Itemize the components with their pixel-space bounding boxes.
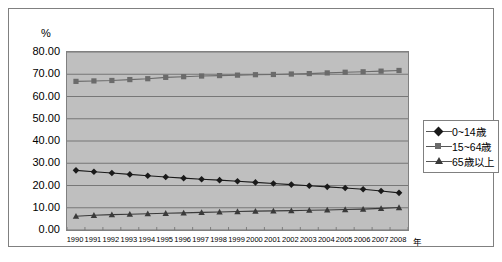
legend-marker-icon	[426, 126, 452, 138]
data-point-marker	[288, 181, 295, 188]
data-point-marker	[109, 170, 116, 177]
y-axis-tick-label: 50.00	[8, 113, 60, 123]
data-point-marker	[396, 190, 403, 197]
data-point-marker	[253, 72, 258, 77]
y-axis-tick-label: 80.00	[8, 46, 60, 56]
y-axis-unit-label: %	[41, 27, 51, 39]
data-point-marker	[378, 69, 383, 74]
plot-area	[66, 51, 409, 231]
data-point-marker	[91, 168, 98, 175]
legend-item-label: 65歳以上	[452, 154, 494, 169]
legend-marker-icon	[426, 156, 452, 168]
y-axis-tick-label: 0.00	[8, 224, 60, 234]
y-axis-tick-label: 30.00	[8, 157, 60, 167]
x-axis-tick-label: 2008	[385, 235, 411, 244]
data-point-marker	[324, 184, 331, 191]
x-axis-ticks: 1990199119921993199419951996199719981999…	[66, 235, 409, 249]
data-point-marker	[145, 76, 150, 81]
chart-legend: 0~14歳15~64歳65歳以上	[423, 120, 499, 173]
data-point-marker	[306, 182, 313, 189]
legend-marker-icon	[426, 141, 452, 153]
data-point-marker	[109, 78, 114, 83]
data-point-marker	[360, 186, 367, 193]
data-point-marker	[127, 77, 132, 82]
legend-item: 15~64歳	[426, 139, 494, 154]
y-axis-tick-label: 60.00	[8, 91, 60, 101]
data-point-marker	[252, 179, 259, 186]
legend-item: 0~14歳	[426, 124, 494, 139]
data-point-marker	[271, 72, 276, 77]
data-point-marker	[289, 71, 294, 76]
y-axis-tick-label: 40.00	[8, 135, 60, 145]
data-point-marker	[144, 172, 151, 179]
x-axis-unit-label: 年	[413, 235, 422, 247]
data-point-marker	[73, 79, 78, 84]
data-point-marker	[73, 167, 80, 174]
data-point-marker	[217, 73, 222, 78]
data-point-marker	[378, 188, 385, 195]
data-point-marker	[162, 174, 169, 181]
series-canvas	[67, 52, 408, 230]
data-point-marker	[343, 70, 348, 75]
data-point-marker	[396, 68, 401, 73]
data-point-marker	[235, 73, 240, 78]
y-axis-tick-label: 20.00	[8, 180, 60, 190]
data-point-marker	[216, 177, 223, 184]
data-point-marker	[307, 71, 312, 76]
legend-item: 65歳以上	[426, 154, 494, 169]
data-point-marker	[199, 73, 204, 78]
legend-item-label: 15~64歳	[452, 139, 492, 154]
data-point-marker	[234, 178, 241, 185]
data-point-marker	[198, 176, 205, 183]
data-point-marker	[163, 75, 168, 80]
data-point-marker	[325, 70, 330, 75]
y-axis-tick-label: 70.00	[8, 68, 60, 78]
y-axis-tick-label: 10.00	[8, 202, 60, 212]
data-point-marker	[127, 171, 134, 178]
chart-frame: % 80.0070.0060.0050.0040.0030.0020.0010.…	[8, 8, 494, 247]
data-point-marker	[91, 78, 96, 83]
data-point-marker	[180, 175, 187, 182]
data-point-marker	[181, 74, 186, 79]
data-point-marker	[361, 69, 366, 74]
legend-item-label: 0~14歳	[452, 124, 486, 139]
